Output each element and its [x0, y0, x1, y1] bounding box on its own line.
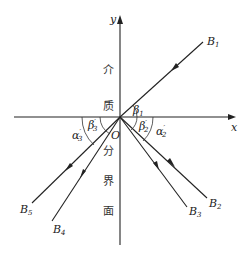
ray-diagram: y x O 介 质 分 界 面 B1 B2 B3 B4 B5 β1 β′2 α′…	[0, 0, 246, 255]
interface-char-4: 界	[103, 175, 114, 188]
interface-char-5: 面	[103, 205, 114, 218]
angle-beta3p: β′3	[87, 118, 98, 133]
angle-alpha2p: α′2	[156, 124, 167, 139]
y-axis-label: y	[109, 13, 117, 26]
label-b3: B3	[188, 205, 202, 219]
interface-char-3: 分	[103, 145, 114, 158]
x-axis-arrow-icon	[228, 114, 236, 120]
label-b2: B2	[208, 197, 222, 211]
y-axis-arrow-icon	[117, 15, 123, 24]
ray-b3	[120, 117, 187, 207]
x-axis-label: x	[231, 121, 238, 134]
angle-alpha3p: α′3	[72, 128, 83, 143]
label-b4: B4	[52, 223, 66, 237]
interface-char-2: 质	[103, 100, 114, 113]
angle-beta2p: β′2	[138, 119, 149, 134]
interface-char-1: 介	[103, 64, 114, 77]
angle-beta1: β1	[132, 104, 144, 118]
label-b1: B1	[206, 35, 220, 49]
origin-label: O	[111, 129, 120, 142]
label-b5: B5	[19, 203, 33, 217]
